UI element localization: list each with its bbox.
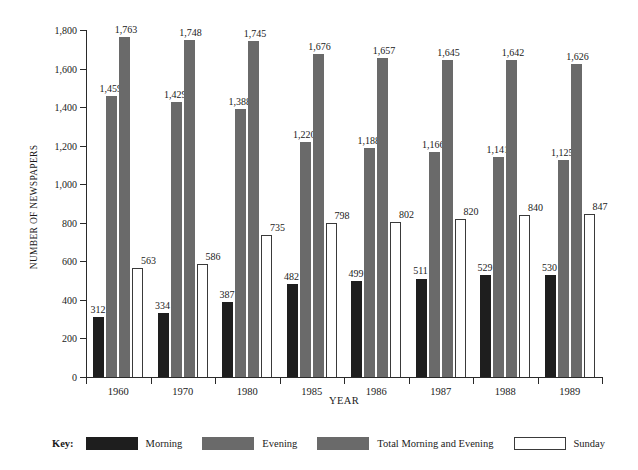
x-axis-title: YEAR [86,395,602,406]
x-axis-tick [538,377,539,384]
legend-item-sunday: Sunday [514,437,606,450]
y-axis-tick-label: 200 [62,333,77,344]
bar-evening-1989 [558,160,569,377]
legend-swatch-total-icon [317,437,369,450]
bar-morning-1986 [351,281,362,377]
x-axis-tick [344,377,345,384]
bar-value-label: 847 [593,201,608,212]
bar-value-label: 563 [141,255,156,266]
bar-total-1988 [506,60,517,377]
bar-value-label: 530 [542,262,557,273]
bar-value-label: 1,763 [115,24,138,35]
bar-evening-1988 [493,157,504,377]
bar-value-label: 735 [270,222,285,233]
y-axis-tick [80,261,86,262]
bar-value-label: 482 [284,271,299,282]
bar-sunday-1980 [261,235,272,377]
y-axis-tick-label: 1,600 [55,63,78,74]
bar-value-label: 1,676 [308,41,331,52]
legend-swatch-sunday-icon [514,437,566,450]
y-axis-tick [80,223,86,224]
bar-value-label: 511 [413,265,428,276]
bar-sunday-1989 [584,214,595,377]
newspaper-bar-chart: NUMBER OF NEWSPAPERS 02004006008001,0001… [0,0,638,470]
bar-sunday-1987 [455,219,466,377]
bar-value-label: 312 [91,304,106,315]
legend-item-evening: Evening [202,437,297,450]
bar-total-1986 [377,58,388,377]
bar-total-1970 [184,40,195,377]
bar-morning-1970 [158,313,169,377]
bar-total-1980 [248,41,259,377]
bar-value-label: 1,657 [373,45,396,56]
legend-item-total: Total Morning and Evening [317,437,493,450]
legend-label-total: Total Morning and Evening [377,438,493,449]
legend-label-morning: Morning [146,438,183,449]
bar-morning-1989 [545,275,556,377]
y-axis-tick-label: 1,000 [55,179,78,190]
legend-swatch-morning-icon [86,437,138,450]
bar-value-label: 1,642 [502,47,525,58]
bar-value-label: 586 [206,251,221,262]
bar-sunday-1960 [132,268,143,377]
bar-total-1989 [571,64,582,377]
y-axis-line [86,30,87,377]
y-axis-tick-label: 600 [62,256,77,267]
bar-morning-1980 [222,302,233,377]
y-axis-tick-label: 1,800 [55,25,78,36]
bar-value-label: 1,745 [244,28,267,39]
y-axis-tick-label: 1,200 [55,140,78,151]
bar-morning-1985 [287,284,298,377]
bar-value-label: 802 [399,209,414,220]
bar-value-label: 1,748 [179,27,202,38]
y-axis-tick [80,146,86,147]
bar-sunday-1988 [519,215,530,377]
bar-morning-1960 [93,317,104,377]
bar-total-1985 [313,54,324,377]
bar-total-1987 [442,60,453,377]
y-axis-tick-label: 400 [62,294,77,305]
bar-value-label: 1,626 [566,51,589,62]
bar-evening-1985 [300,142,311,377]
y-axis-tick [80,107,86,108]
bar-value-label: 1,645 [437,47,460,58]
legend-label-sunday: Sunday [574,438,606,449]
bar-value-label: 529 [478,262,493,273]
bar-value-label: 334 [155,300,170,311]
y-axis-tick-label: 1,400 [55,102,78,113]
x-axis-tick [280,377,281,384]
bar-sunday-1970 [197,264,208,377]
y-axis-tick [80,184,86,185]
bar-evening-1970 [171,102,182,377]
plot-area: 02004006008001,0001,2001,4001,6001,80019… [86,30,602,377]
bar-value-label: 499 [349,268,364,279]
y-axis-tick [80,30,86,31]
bar-value-label: 840 [528,202,543,213]
legend-label-evening: Evening [262,438,297,449]
y-axis-tick-label: 0 [72,372,77,383]
y-axis-tick [80,300,86,301]
x-axis-tick [602,377,603,384]
legend-key-label: Key: [52,438,74,449]
bar-evening-1986 [364,148,375,377]
bar-total-1960 [119,37,130,377]
bar-value-label: 820 [464,206,479,217]
legend-item-morning: Morning [86,437,183,450]
bar-value-label: 387 [220,289,235,300]
bar-sunday-1986 [390,222,401,377]
y-axis-title: NUMBER OF NEWSPAPERS [29,107,39,307]
bar-morning-1988 [480,275,491,377]
y-axis-tick [80,69,86,70]
x-axis-tick [86,377,87,384]
legend-swatch-evening-icon [202,437,254,450]
y-axis-tick-label: 800 [62,217,77,228]
x-axis-tick [473,377,474,384]
x-axis-tick [409,377,410,384]
chart-legend: Key: Morning Evening Total Morning and E… [0,432,638,454]
bar-evening-1980 [235,109,246,377]
bar-sunday-1985 [326,223,337,377]
bar-morning-1987 [416,279,427,378]
y-axis-tick [80,338,86,339]
bar-value-label: 798 [335,210,350,221]
x-axis-tick [215,377,216,384]
